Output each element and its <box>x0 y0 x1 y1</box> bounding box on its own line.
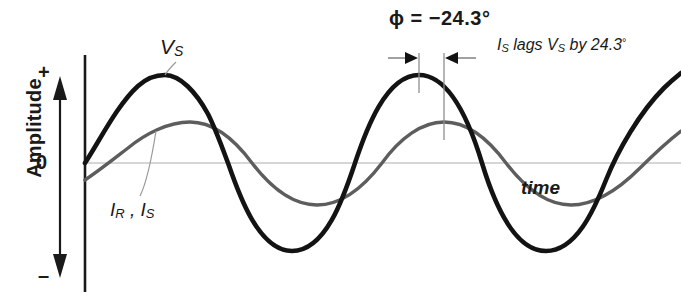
phase-angle-annotation: ϕ = −24.3° <box>389 8 490 28</box>
voltage-subscript: S <box>174 43 183 59</box>
y-axis-zero-label: 0 <box>36 152 47 172</box>
current-series-label: IR , IS <box>110 200 154 220</box>
lag-suffix-text: by 24.3 <box>565 36 622 53</box>
lag-voltage-subscript: S <box>558 42 565 54</box>
voltage-leader-line <box>165 62 176 75</box>
x-axis-label: time <box>521 178 560 197</box>
current-subscript-1: R <box>115 206 124 221</box>
amplitude-arrow <box>53 76 67 278</box>
current-subscript-2: S <box>146 206 155 221</box>
waveform-figure: Amplitude + 0 – VS IR , IS ϕ = −24.3° IS… <box>0 0 681 304</box>
lag-note-annotation: IS lags VS by 24.3° <box>497 37 626 54</box>
lag-degree-symbol: ° <box>622 36 626 48</box>
phase-gap-arrows <box>388 52 476 64</box>
lag-middle-text: lags V <box>509 36 558 53</box>
y-axis-plus-label: + <box>38 62 50 82</box>
current-separator: , <box>125 199 141 220</box>
voltage-symbol: V <box>160 35 174 58</box>
y-axis-minus-label: – <box>38 265 49 285</box>
lag-current-subscript: S <box>501 42 508 54</box>
voltage-series-label: VS <box>160 36 183 58</box>
